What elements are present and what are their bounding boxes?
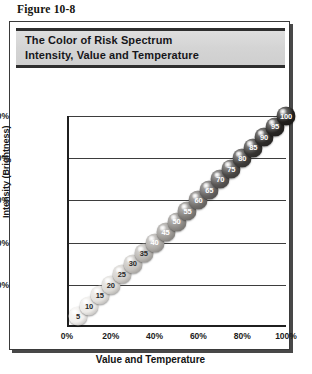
gridline [69, 200, 286, 201]
data-point-label: 65 [205, 186, 213, 194]
x-tick-label: 40% [146, 331, 163, 341]
x-tick-label: 80% [234, 331, 251, 341]
figure-caption: Figure 10-8 [17, 3, 76, 15]
data-point-label: 10 [85, 302, 93, 310]
data-point-label: 45 [162, 228, 170, 236]
data-point-label: 80 [238, 154, 246, 162]
x-axis-title: Value and Temperature [10, 354, 291, 365]
y-axis-title: Intensity (Brightness) [1, 125, 11, 218]
data-point-label: 20 [107, 281, 115, 289]
data-point-label: 85 [249, 144, 257, 152]
x-tick-label: 60% [190, 331, 207, 341]
data-point-label: 40 [151, 239, 159, 247]
data-point-label: 15 [96, 292, 104, 300]
gridline [69, 243, 286, 244]
data-point-label: 95 [271, 123, 279, 131]
y-tick-label: 20% [0, 280, 9, 290]
chart-title-line-1: The Color of Risk Spectrum [25, 33, 285, 48]
chart-card: The Color of Risk Spectrum Intensity, Va… [9, 21, 290, 350]
data-point-label: 100 [280, 112, 292, 120]
y-tick-label: 100% [0, 111, 9, 121]
chart-title-line-2: Intensity, Value and Temperature [25, 48, 285, 63]
chart-title-band: The Color of Risk Spectrum Intensity, Va… [16, 28, 285, 68]
x-tick-label: 0% [61, 331, 73, 341]
chart-area: Intensity (Brightness) 20%40%60%80%100% … [10, 68, 291, 349]
data-point-label: 25 [118, 271, 126, 279]
data-point-label: 5 [76, 313, 80, 321]
data-point-label: 55 [183, 207, 191, 215]
data-point-label: 35 [140, 249, 148, 257]
data-point-label: 90 [260, 133, 268, 141]
data-point-label: 30 [129, 260, 137, 268]
data-point-label: 60 [194, 197, 202, 205]
gridline [69, 158, 286, 159]
gridline [69, 116, 286, 117]
data-point-label: 70 [216, 176, 224, 184]
x-tick-label: 100% [275, 331, 297, 341]
data-point-label: 50 [173, 218, 181, 226]
x-tick-label: 20% [102, 331, 119, 341]
data-point-marker: 100 [277, 107, 296, 126]
data-point-label: 75 [227, 165, 235, 173]
y-tick-label: 40% [0, 238, 9, 248]
figure-container: Figure 10-8 The Color of Risk Spectrum I… [0, 0, 312, 374]
